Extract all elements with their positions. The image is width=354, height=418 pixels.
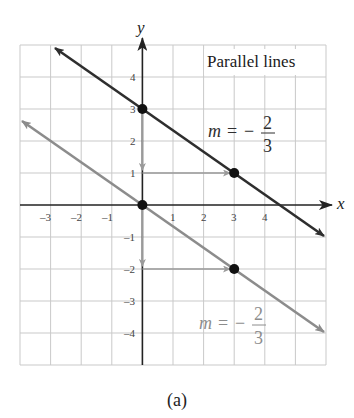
svg-text:−: −	[244, 121, 254, 141]
x-tick: 1	[170, 211, 176, 223]
slope-label-lower: m = − 2 3	[199, 304, 266, 348]
y-tick: –1	[123, 231, 135, 243]
svg-text:3: 3	[263, 136, 272, 156]
svg-text:−: −	[235, 313, 245, 333]
y-tick: 1	[130, 167, 136, 179]
svg-text:=: =	[227, 121, 237, 141]
figure-caption: (a)	[0, 390, 354, 411]
x-tick: –3	[39, 211, 52, 223]
svg-text:m: m	[199, 313, 212, 333]
y-tick: 2	[130, 135, 136, 147]
svg-text:2: 2	[263, 113, 272, 133]
y-tick: –4	[123, 327, 136, 339]
x-tick: –2	[70, 211, 82, 223]
x-tick: 4	[262, 211, 268, 223]
point-3-1	[229, 168, 239, 178]
x-tick: 2	[201, 211, 207, 223]
svg-text:m: m	[208, 121, 221, 141]
chart-title: Parallel lines	[207, 52, 295, 71]
marked-points	[137, 104, 239, 274]
y-tick: 4	[130, 71, 136, 83]
axes	[20, 38, 332, 365]
x-tick: –1	[101, 211, 113, 223]
svg-text:3: 3	[254, 328, 263, 348]
y-tick: –2	[123, 263, 135, 275]
x-tick: 3	[231, 211, 237, 223]
y-axis-label: y	[135, 18, 145, 37]
x-axis-label: x	[336, 194, 345, 213]
svg-text:=: =	[218, 313, 228, 333]
point-0-3	[137, 104, 147, 114]
upper-line	[55, 48, 324, 236]
parallel-lines-chart: Parallel lines x y –3 –2 –1 1 2 3 4 4 3 …	[0, 0, 354, 418]
point-3-neg2	[229, 264, 239, 274]
svg-text:2: 2	[254, 304, 263, 324]
y-tick: –3	[123, 295, 136, 307]
point-0-0	[137, 200, 147, 210]
